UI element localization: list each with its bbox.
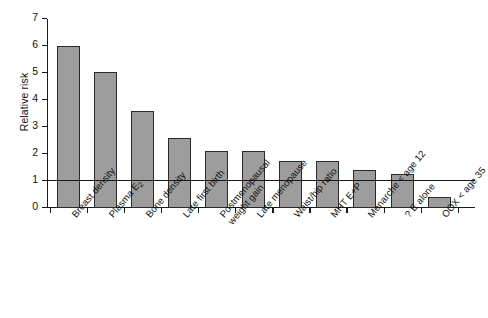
y-tick-label-2: 2 (32, 146, 38, 158)
y-tick-4: 4 (42, 99, 47, 100)
y-tick-label-0: 0 (32, 200, 38, 212)
x-tick-11 (458, 208, 459, 213)
x-tick-0 (50, 208, 51, 213)
y-tick-3: 3 (42, 126, 47, 127)
x-tick-6 (272, 208, 273, 213)
y-tick-0: 0 (42, 207, 47, 208)
y-axis-title: Relative risk (18, 42, 30, 162)
y-tick-label-1: 1 (32, 173, 38, 185)
x-tick-7 (309, 208, 310, 213)
y-tick-label-7: 7 (32, 11, 38, 23)
y-tick-2: 2 (42, 153, 47, 154)
y-tick-label-6: 6 (32, 38, 38, 50)
y-tick-label-3: 3 (32, 119, 38, 131)
y-tick-5: 5 (42, 72, 47, 73)
y-tick-label-5: 5 (32, 65, 38, 77)
bar (57, 46, 80, 208)
x-tick-9 (384, 208, 385, 213)
y-tick-7: 7 (42, 18, 47, 19)
x-tick-8 (346, 208, 347, 213)
x-tick-10 (421, 208, 422, 213)
y-tick-label-4: 4 (32, 92, 38, 104)
y-tick-6: 6 (42, 45, 47, 46)
